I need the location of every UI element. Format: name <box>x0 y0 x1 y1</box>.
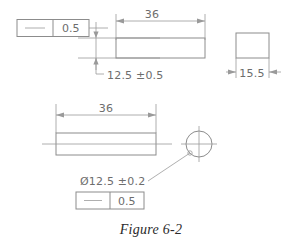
length-arrow-left-top <box>116 19 124 24</box>
figure-caption: Figure 6-2 <box>119 222 183 237</box>
top-fcf-tolerance: 0.5 <box>62 22 80 35</box>
diameter-leader-line <box>148 153 190 181</box>
length-arrow-right-top <box>197 19 205 24</box>
diameter-dimension-text: Ø12.5 ±0.2 <box>80 175 145 188</box>
length-arrow-left-bottom <box>56 113 64 118</box>
bottom-fcf-tolerance: 0.5 <box>118 195 136 208</box>
side-width-dimension-text: 15.5 <box>239 67 264 80</box>
side-arrow-right <box>269 70 277 75</box>
bottom-length-dimension-text: 36 <box>99 102 113 115</box>
length-arrow-right-bottom <box>148 113 156 118</box>
length-dimension-group-top <box>116 14 205 40</box>
circular-end-view <box>181 126 217 162</box>
drawing-canvas: 0.5 36 12.5 ±0.5 15.5 36 Ø12.5 ±0.2 0.5 … <box>0 0 302 245</box>
height-dim-arrow-top <box>93 32 98 39</box>
height-dimension-group <box>78 22 160 74</box>
engineering-drawing-figure: 0.5 36 12.5 ±0.5 15.5 36 Ø12.5 ±0.2 0.5 … <box>0 0 302 245</box>
side-view-body <box>236 33 269 58</box>
front-view-body <box>116 38 205 58</box>
height-dimension-text: 12.5 ±0.5 <box>107 69 164 82</box>
top-length-dimension-text: 36 <box>145 8 159 21</box>
side-arrow-left <box>228 70 236 75</box>
